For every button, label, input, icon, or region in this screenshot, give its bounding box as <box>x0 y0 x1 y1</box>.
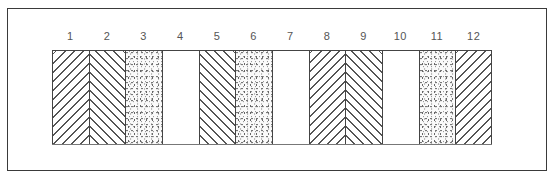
pattern-strip <box>52 50 492 145</box>
pattern-column-2-hatch-backward <box>89 51 126 144</box>
column-label-7: 7 <box>272 30 309 42</box>
pattern-column-9-hatch-backward <box>345 51 382 144</box>
column-label-10: 10 <box>382 30 419 42</box>
pattern-column-12-hatch-forward <box>455 51 492 144</box>
pattern-column-5-hatch-backward <box>199 51 236 144</box>
pattern-column-7-blank <box>272 51 309 144</box>
column-label-12: 12 <box>455 30 492 42</box>
column-label-2: 2 <box>89 30 126 42</box>
column-label-4: 4 <box>162 30 199 42</box>
pattern-column-1-hatch-forward <box>52 51 89 144</box>
pattern-column-11-stipple <box>419 51 456 144</box>
column-labels: 123456789101112 <box>52 30 492 46</box>
pattern-column-8-hatch-forward <box>309 51 346 144</box>
column-label-6: 6 <box>235 30 272 42</box>
pattern-column-10-blank <box>382 51 419 144</box>
column-label-5: 5 <box>199 30 236 42</box>
pattern-column-6-stipple <box>235 51 272 144</box>
pattern-column-3-stipple <box>125 51 162 144</box>
column-label-3: 3 <box>125 30 162 42</box>
column-label-9: 9 <box>345 30 382 42</box>
column-label-1: 1 <box>52 30 89 42</box>
column-label-11: 11 <box>419 30 456 42</box>
column-label-8: 8 <box>309 30 346 42</box>
pattern-column-4-blank <box>162 51 199 144</box>
